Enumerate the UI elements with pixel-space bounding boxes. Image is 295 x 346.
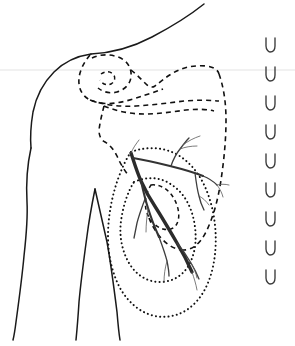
anatomical-figure-root xyxy=(0,0,295,346)
anatomy-illustration xyxy=(0,0,295,346)
figure-background xyxy=(0,0,295,346)
